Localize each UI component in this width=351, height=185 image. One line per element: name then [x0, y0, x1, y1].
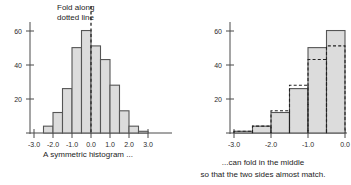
x-ticklabel-n2-right: -2.0 [265, 141, 277, 148]
y-ticklabel-20: 20 [14, 96, 22, 103]
histogram-bar [120, 111, 130, 133]
y-axis-right: 60 40 20 [214, 22, 234, 134]
histogram-bar [308, 48, 327, 133]
histogram-bar [91, 46, 101, 133]
x-ticklabel-3: 3.0 [143, 141, 153, 148]
histogram-bar [139, 131, 149, 133]
x-ticklabel-1: 1.0 [105, 141, 115, 148]
caption-right-line2: so that the two sides almost match. [175, 170, 351, 179]
histogram-bar [53, 113, 63, 133]
caption-right-line1: ...can fold in the middle [175, 158, 351, 167]
x-ticklabel-n2: -2.0 [47, 141, 59, 148]
histogram-bar [44, 126, 54, 133]
x-ticklabel-0-right: 0.0 [340, 141, 350, 148]
x-ticklabel-n3: -3.0 [28, 141, 40, 148]
x-ticklabel-2: 2.0 [124, 141, 134, 148]
histogram-bar [82, 31, 92, 133]
x-ticklabel-n1: -1.0 [66, 141, 78, 148]
x-ticklabel-n1-right: -1.0 [302, 141, 314, 148]
y-ticklabel-60-right: 60 [214, 28, 222, 35]
fold-annotation-line1: Fold along [57, 3, 94, 13]
histogram-bar [72, 48, 82, 133]
histogram-bar [271, 113, 290, 133]
histogram-bar [129, 126, 139, 133]
histogram-bars-left [44, 31, 149, 133]
histogram-bar [63, 89, 73, 133]
fold-annotation-line2: dotted line [57, 13, 94, 23]
x-ticklabel-0: 0.0 [86, 141, 96, 148]
histogram-bar [290, 89, 309, 133]
fold-annotation: Fold along dotted line [57, 3, 94, 23]
caption-left: A symmetric histogram ... [0, 150, 176, 159]
x-ticklabel-n3-right: -3.0 [228, 141, 240, 148]
y-axis-left: 60 40 20 [14, 22, 34, 134]
y-ticklabel-60: 60 [14, 28, 22, 35]
y-ticklabel-40: 40 [14, 62, 22, 69]
histogram-bar [110, 85, 120, 133]
y-ticklabel-20-right: 20 [214, 96, 222, 103]
folded-histogram-svg: 60 40 20 -3.0 -2.0 -1.0 0.0 [175, 0, 351, 158]
histogram-bar [253, 126, 272, 133]
histogram-bar [101, 60, 111, 133]
y-ticklabel-40-right: 40 [214, 62, 222, 69]
